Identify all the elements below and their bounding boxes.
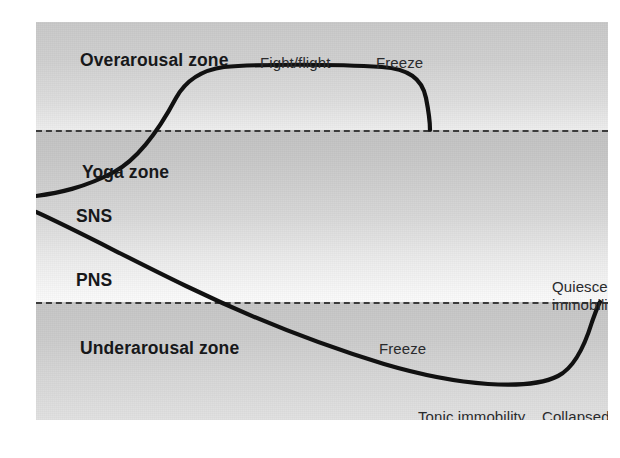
label-pns: PNS [76,270,112,291]
label-freeze-underarousal: Freeze [379,340,426,358]
label-overarousal-zone: Overarousal zone [80,50,228,71]
pns-curve [36,212,600,385]
label-fight-flight: Fight/flight [260,54,330,72]
label-collapsed-immobility: Collapsed immobility [542,408,608,420]
curves-layer [36,22,608,420]
label-underarousal-zone: Underarousal zone [80,338,239,359]
label-freeze-overarousal: Freeze [376,54,423,72]
label-quiescent-immobility: Quiescent immobility [552,278,608,313]
label-sns: SNS [76,206,112,227]
arousal-zones-figure: Overarousal zone Fight/flight Freeze Yog… [0,0,620,458]
label-tonic-immobility: Tonic immobility [418,408,525,420]
chart-panel: Overarousal zone Fight/flight Freeze Yog… [36,22,608,420]
label-yoga-zone: Yoga zone [82,162,169,183]
